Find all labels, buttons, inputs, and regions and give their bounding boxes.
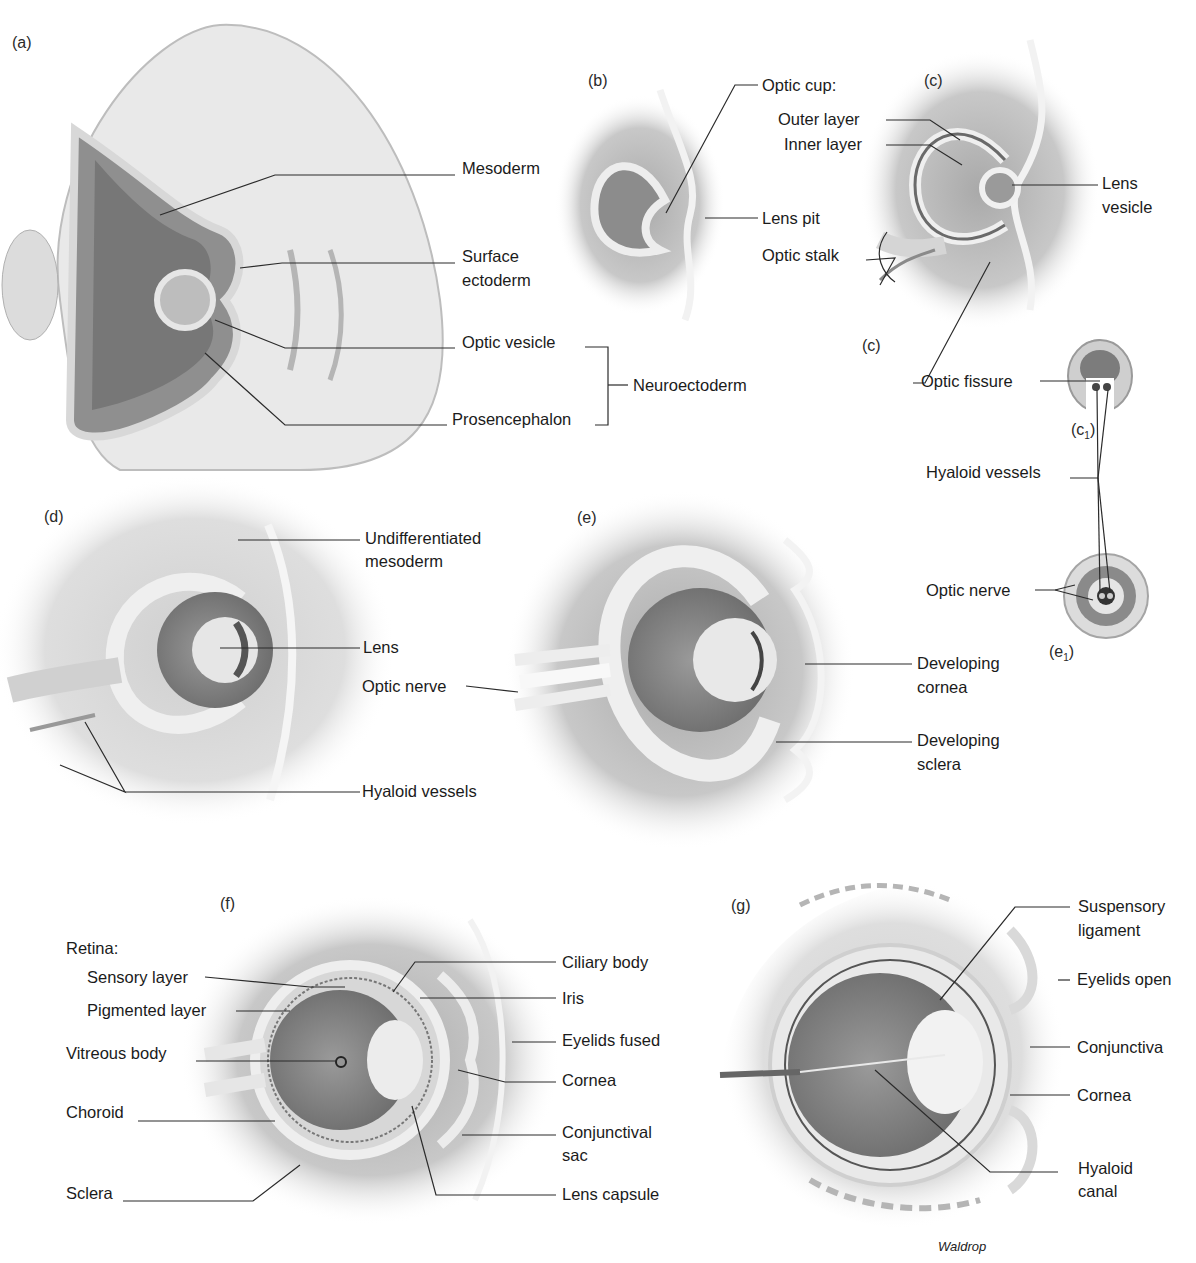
label-outer-layer: Outer layer xyxy=(778,108,860,130)
label-hyaloid-vessels-d: Hyaloid vessels xyxy=(362,780,477,802)
label-conjunctiva: Conjunctiva xyxy=(1077,1036,1163,1058)
label-hyaloid-canal-line2: canal xyxy=(1078,1180,1117,1202)
panel-tag-e: (e) xyxy=(577,509,597,527)
label-cornea-g: Cornea xyxy=(1077,1084,1131,1106)
label-undifferentiated-line1: Undifferentiated xyxy=(365,527,481,549)
label-suspensory-ligament-line2: ligament xyxy=(1078,919,1140,941)
panel-tag-e1: (e1) xyxy=(1049,643,1074,663)
panel-tag-d: (d) xyxy=(44,508,64,526)
panel-tag-c: (c) xyxy=(924,72,943,90)
label-ciliary-body: Ciliary body xyxy=(562,951,648,973)
panel-d-illustration xyxy=(0,475,395,825)
label-vitreous-body: Vitreous body xyxy=(66,1042,167,1064)
label-mesoderm: Mesoderm xyxy=(462,157,540,179)
panel-tag-f: (f) xyxy=(220,895,235,913)
label-developing-cornea-line2: cornea xyxy=(917,676,967,698)
label-sensory-layer: Sensory layer xyxy=(87,966,188,988)
label-eyelids-open: Eyelids open xyxy=(1077,968,1171,990)
section-ref-c: (c) xyxy=(862,337,881,355)
panel-e-illustration xyxy=(505,490,855,850)
label-developing-sclera-line2: sclera xyxy=(917,753,961,775)
label-conjunctival-sac-line2: sac xyxy=(562,1144,588,1166)
label-pigmented-layer: Pigmented layer xyxy=(87,999,206,1021)
label-lens-vesicle-line1: Lens xyxy=(1102,172,1138,194)
panel-tag-b: (b) xyxy=(588,72,608,90)
panel-f-illustration xyxy=(180,895,560,1225)
label-developing-sclera-line1: Developing xyxy=(917,729,1000,751)
label-hyaloid-canal-line1: Hyaloid xyxy=(1078,1157,1133,1179)
label-choroid: Choroid xyxy=(66,1101,124,1123)
label-optic-nerve-e1: Optic nerve xyxy=(926,579,1010,601)
label-optic-fissure: Optic fissure xyxy=(921,370,1013,392)
label-conjunctival-sac-line1: Conjunctival xyxy=(562,1121,652,1143)
label-surface-ectoderm-line1: Surface xyxy=(462,245,519,267)
label-lens-vesicle-line2: vesicle xyxy=(1102,196,1152,218)
label-optic-cup: Optic cup: xyxy=(762,74,836,96)
panel-tag-a: (a) xyxy=(12,34,32,52)
illustrator-credit: Waldrop xyxy=(938,1239,986,1254)
figure-canvas: (a) (b) (c) (c1) (d) (e) (e1) (f) (g) Me… xyxy=(0,0,1196,1263)
label-undifferentiated-line2: mesoderm xyxy=(365,550,443,572)
label-lens-capsule: Lens capsule xyxy=(562,1183,659,1205)
label-optic-vesicle: Optic vesicle xyxy=(462,331,556,353)
label-inner-layer: Inner layer xyxy=(784,133,862,155)
label-iris: Iris xyxy=(562,987,584,1009)
label-neuroectoderm: Neuroectoderm xyxy=(633,374,747,396)
label-cornea-f: Cornea xyxy=(562,1069,616,1091)
label-hyaloid-vessels-c1: Hyaloid vessels xyxy=(926,461,1041,483)
label-developing-cornea-line1: Developing xyxy=(917,652,1000,674)
label-sclera: Sclera xyxy=(66,1182,113,1204)
label-optic-stalk: Optic stalk xyxy=(762,244,839,266)
panel-tag-g: (g) xyxy=(731,897,751,915)
label-lens-pit: Lens pit xyxy=(762,207,820,229)
label-suspensory-ligament-line1: Suspensory xyxy=(1078,895,1165,917)
panel-a-illustration xyxy=(2,25,443,470)
panel-g-illustration xyxy=(720,879,1065,1230)
label-prosencephalon: Prosencephalon xyxy=(452,408,571,430)
label-lens: Lens xyxy=(363,636,399,658)
label-optic-nerve-d: Optic nerve xyxy=(362,675,446,697)
label-retina: Retina: xyxy=(66,937,118,959)
label-surface-ectoderm-line2: ectoderm xyxy=(462,269,531,291)
panel-tag-c1: (c1) xyxy=(1071,421,1095,441)
panel-c1-illustration xyxy=(1068,340,1132,414)
panel-b-illustration xyxy=(555,90,725,320)
label-eyelids-fused: Eyelids fused xyxy=(562,1029,660,1051)
